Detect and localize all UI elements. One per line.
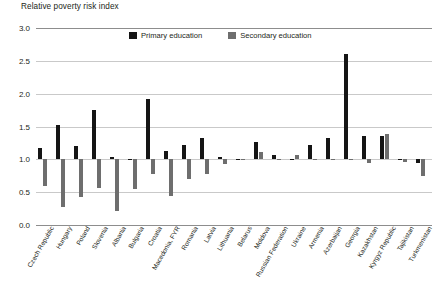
bar-group <box>324 28 342 225</box>
chart-axis-title: Relative poverty risk index <box>21 2 119 11</box>
bar-group <box>90 28 108 225</box>
bar-secondary-azerbaijan <box>331 159 335 160</box>
bar-primary-turkmenistan <box>416 159 420 163</box>
bar-group <box>108 28 126 225</box>
x-tick-label: Moldova <box>253 225 272 250</box>
bar-group <box>288 28 306 225</box>
y-tick-label-2.0: 2.0 <box>0 89 30 98</box>
bar-secondary-macedonia-fyr <box>169 159 173 196</box>
bar-group <box>144 28 162 225</box>
bar-group <box>54 28 72 225</box>
x-tick-label: Croatia <box>146 225 163 247</box>
x-tick-label: Latvia <box>202 225 217 244</box>
bar-secondary-kazakhstan <box>367 159 371 163</box>
bar-primary-lithuania <box>218 157 222 159</box>
bar-secondary-russian-federation <box>277 159 281 160</box>
bar-primary-russian-federation <box>272 155 276 160</box>
bar-secondary-belarus <box>241 159 245 160</box>
y-tick-label-3.0: 3.0 <box>0 24 30 33</box>
poverty-risk-bar-chart: Relative poverty risk index Primary educ… <box>0 0 442 297</box>
bar-primary-kyrgyz-republic <box>380 136 384 159</box>
x-tick-label: Hungary <box>55 225 74 250</box>
bar-secondary-armenia <box>313 159 317 160</box>
bar-primary-moldova <box>254 142 258 160</box>
x-tick-label: Georgia <box>343 225 361 249</box>
bar-group <box>342 28 360 225</box>
bar-group <box>378 28 396 225</box>
bar-primary-macedonia-fyr <box>164 151 168 159</box>
bar-group <box>360 28 378 225</box>
y-tick-label-0.5: 0.5 <box>0 188 30 197</box>
bar-primary-hungary <box>56 125 60 160</box>
x-tick-label: Tajikistan <box>395 225 415 252</box>
bar-group <box>270 28 288 225</box>
bar-group <box>234 28 252 225</box>
y-tick-label-1.0: 1.0 <box>0 155 30 164</box>
bar-group <box>216 28 234 225</box>
bar-primary-albania <box>110 157 114 160</box>
bar-secondary-romania <box>187 159 191 179</box>
x-tick-label: Lithuania <box>216 225 235 252</box>
bar-secondary-hungary <box>61 159 65 206</box>
bar-primary-belarus <box>236 159 240 160</box>
bar-primary-croatia <box>146 99 150 159</box>
bar-primary-bulgaria <box>128 159 132 160</box>
bar-primary-poland <box>74 146 78 159</box>
bar-secondary-lithuania <box>223 159 227 164</box>
bar-secondary-bulgaria <box>133 159 137 189</box>
bar-secondary-croatia <box>151 159 155 173</box>
bar-primary-georgia <box>344 54 348 159</box>
bar-secondary-georgia <box>349 159 353 160</box>
x-tick-label: Bulgaria <box>127 225 145 249</box>
bar-group <box>162 28 180 225</box>
bar-secondary-albania <box>115 159 119 211</box>
bar-secondary-slovenia <box>97 159 101 187</box>
x-tick-label: Czech Republic <box>26 225 55 268</box>
x-axis-labels: Czech RepublicHungaryPolandSloveniaAlban… <box>36 225 432 297</box>
bar-secondary-turkmenistan <box>421 159 425 175</box>
bar-primary-czech-republic <box>38 148 42 160</box>
y-tick-label-2.5: 2.5 <box>0 56 30 65</box>
bar-secondary-ukraine <box>295 155 299 159</box>
bar-series-container <box>36 28 432 225</box>
x-tick-label: Belarus <box>236 225 253 248</box>
x-tick-label: Romania <box>180 225 199 251</box>
y-tick-label-0.0: 0.0 <box>0 221 30 230</box>
bar-primary-kazakhstan <box>362 136 366 159</box>
bar-primary-romania <box>182 145 186 159</box>
x-tick-label: Armenia <box>307 225 325 250</box>
bar-group <box>396 28 414 225</box>
bar-primary-latvia <box>200 138 204 160</box>
x-tick-label: Poland <box>75 225 91 246</box>
bar-secondary-moldova <box>259 152 263 159</box>
bar-primary-armenia <box>308 145 312 159</box>
bar-secondary-kyrgyz-republic <box>385 134 389 159</box>
bar-secondary-latvia <box>205 159 209 173</box>
bar-secondary-czech-republic <box>43 159 47 185</box>
bar-group <box>198 28 216 225</box>
bar-group <box>126 28 144 225</box>
bar-group <box>252 28 270 225</box>
y-tick-label-1.5: 1.5 <box>0 122 30 131</box>
x-tick-label: Albania <box>110 225 127 248</box>
bar-primary-tajikistan <box>398 159 402 160</box>
bar-primary-slovenia <box>92 110 96 159</box>
plot-area <box>36 28 432 225</box>
x-tick-label: Azerbaijan <box>321 225 343 255</box>
bar-group <box>72 28 90 225</box>
bar-group <box>36 28 54 225</box>
bar-secondary-poland <box>79 159 83 197</box>
x-tick-label: Ukraine <box>290 225 307 248</box>
bar-primary-azerbaijan <box>326 138 330 159</box>
bar-primary-ukraine <box>290 159 294 160</box>
bar-group <box>180 28 198 225</box>
bar-secondary-tajikistan <box>403 159 407 162</box>
bar-group <box>306 28 324 225</box>
bar-group <box>414 28 432 225</box>
x-tick-label: Slovenia <box>90 225 109 250</box>
